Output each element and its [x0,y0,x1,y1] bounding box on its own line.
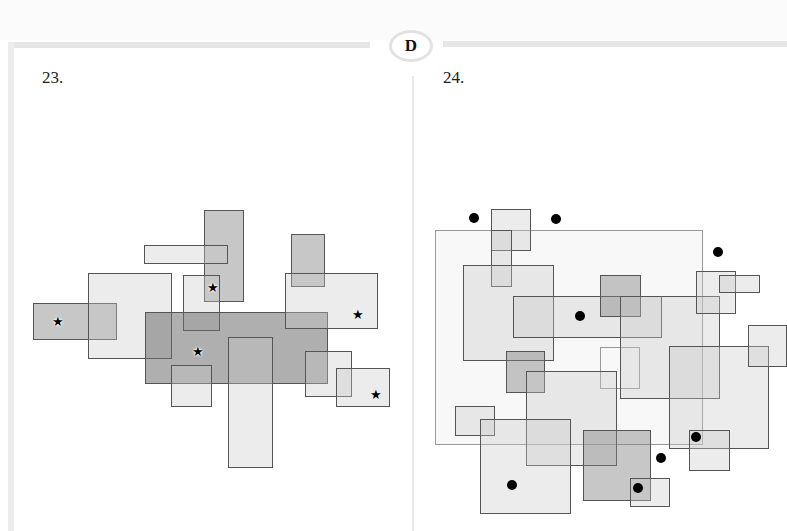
dot-icon [633,483,643,493]
left-margin-rule [8,42,14,531]
header-rule-left [8,42,370,48]
star-icon: ★ [206,281,220,295]
question-number-24: 24. [443,68,464,88]
dot-icon [469,213,479,223]
page-top-band [0,0,787,40]
star-icon: ★ [351,308,365,322]
rectangle-light [171,365,212,407]
dot-icon [551,214,561,224]
rectangle-light [144,245,228,264]
rectangle-light [748,325,787,367]
section-badge: D [389,30,433,62]
question-number-23: 23. [42,68,63,88]
header-rule-right [443,41,787,47]
rectangle-light [228,337,273,468]
star-icon: ★ [191,345,205,359]
panel-divider [412,76,414,531]
dot-icon [713,247,723,257]
star-icon: ★ [51,315,65,329]
star-icon: ★ [369,388,383,402]
dot-icon [507,480,517,490]
dot-icon [575,311,585,321]
dot-icon [656,453,666,463]
rectangle-light [480,419,571,514]
dot-icon [691,432,701,442]
rectangle-light [719,275,760,293]
